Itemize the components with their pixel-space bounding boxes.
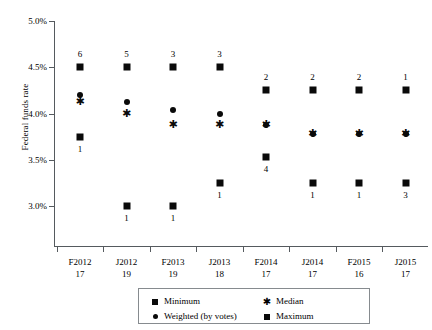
x-category-count: 17 (254, 268, 277, 280)
x-tick-mark (57, 246, 58, 252)
data-marker-circle (217, 111, 223, 117)
y-tick-mark (49, 67, 54, 68)
x-category-count: 19 (116, 268, 138, 280)
data-point-count-label: 2 (264, 73, 269, 82)
y-axis-line (54, 21, 55, 246)
legend-label: Maximum (276, 312, 314, 321)
legend-label: Minimum (164, 297, 200, 306)
data-marker-square (263, 153, 270, 160)
x-axis-line (54, 246, 428, 247)
x-category-name: J2014 (302, 256, 324, 268)
x-category-name: J2015 (395, 256, 417, 268)
x-category-count: 17 (395, 268, 417, 280)
data-point-count-label: 1 (217, 190, 222, 199)
x-category-count: 17 (302, 268, 324, 280)
x-category-label: J201517 (395, 256, 417, 280)
data-point-count-label: 5 (124, 50, 129, 59)
data-marker-square (309, 87, 316, 94)
data-point-count-label: 3 (403, 190, 408, 199)
data-marker-circle (124, 99, 130, 105)
data-marker-square (402, 87, 409, 94)
plot-area: 3.0%3.5%4.0%4.5%5.0% 65332221✱✱✱✱✱✱✱✱111… (54, 18, 428, 246)
x-category-label: F201516 (347, 256, 370, 280)
data-marker-square (170, 64, 177, 71)
x-category-name: J2012 (116, 256, 138, 268)
legend-label: Median (276, 297, 304, 306)
data-point-count-label: 1 (357, 190, 362, 199)
y-tick-mark (49, 160, 54, 161)
data-marker-square (356, 87, 363, 94)
x-category-label: J201417 (302, 256, 324, 280)
chart-figure: Federal funds rate 3.0%3.5%4.0%4.5%5.0% … (0, 0, 432, 330)
x-category-name: F2014 (254, 256, 277, 268)
legend-label: Weighted (by votes) (164, 312, 237, 321)
y-tick-mark (49, 206, 54, 207)
data-marker-square (402, 179, 409, 186)
x-category-label: J201318 (209, 256, 231, 280)
x-category-count: 19 (161, 268, 184, 280)
y-tick-mark (49, 21, 54, 22)
chart-legend: Minimum✱MedianWeighted (by votes)Maximum (138, 288, 370, 324)
y-tick-label: 3.0% (28, 202, 47, 211)
legend-glyph-square (261, 312, 273, 321)
y-tick-label: 5.0% (28, 17, 47, 26)
x-category-label: F201319 (161, 256, 184, 280)
legend-circle-icon (153, 314, 158, 319)
x-category-name: J2013 (209, 256, 231, 268)
data-marker-square (123, 203, 130, 210)
legend-square-icon (264, 314, 270, 320)
data-point-count-label: 1 (310, 190, 315, 199)
legend-glyph-circle (149, 312, 161, 321)
data-point-count-label: 2 (357, 73, 362, 82)
y-tick: 3.5% (54, 160, 55, 161)
legend-glyph-star: ✱ (261, 297, 273, 306)
data-marker-square (77, 64, 84, 71)
y-tick: 4.5% (54, 67, 55, 68)
x-tick-mark (196, 246, 197, 252)
data-point-count-label: 2 (310, 73, 315, 82)
y-tick-label: 3.5% (28, 155, 47, 164)
data-marker-square (309, 179, 316, 186)
data-marker-square (123, 64, 130, 71)
data-marker-circle (170, 107, 176, 113)
x-category-label: J201219 (116, 256, 138, 280)
legend-entry[interactable]: Maximum (261, 312, 314, 321)
data-point-count-label: 6 (78, 50, 83, 59)
legend-glyph-square (149, 297, 161, 306)
x-tick-mark (382, 246, 383, 252)
legend-entry[interactable]: Weighted (by votes) (149, 312, 237, 321)
x-tick-mark (103, 246, 104, 252)
legend-square-icon (152, 299, 158, 305)
x-category-count: 17 (68, 268, 91, 280)
x-category-label: F201417 (254, 256, 277, 280)
x-tick-mark (243, 246, 244, 252)
data-point-count-label: 1 (124, 214, 129, 223)
data-marker-square (216, 64, 223, 71)
x-category-count: 18 (209, 268, 231, 280)
legend-entry[interactable]: Minimum (149, 297, 200, 306)
data-marker-square (170, 203, 177, 210)
x-category-name: F2012 (68, 256, 91, 268)
x-tick-mark (150, 246, 151, 252)
y-tick-label: 4.0% (28, 109, 47, 118)
data-marker-square (356, 179, 363, 186)
data-point-count-label: 3 (171, 50, 176, 59)
x-tick-mark (336, 246, 337, 252)
x-category-label: F201217 (68, 256, 91, 280)
y-tick-mark (49, 114, 54, 115)
data-marker-square (216, 179, 223, 186)
data-point-count-label: 1 (403, 73, 408, 82)
legend-entry[interactable]: ✱Median (261, 297, 304, 306)
data-point-count-label: 1 (78, 144, 83, 153)
x-category-name: F2013 (161, 256, 184, 268)
data-point-count-label: 1 (171, 214, 176, 223)
x-category-count: 16 (347, 268, 370, 280)
x-category-name: F2015 (347, 256, 370, 268)
data-point-count-label: 4 (264, 164, 269, 173)
y-tick: 3.0% (54, 206, 55, 207)
y-tick: 4.0% (54, 114, 55, 115)
data-point-count-label: 3 (217, 50, 222, 59)
y-tick-label: 4.5% (28, 63, 47, 72)
data-marker-square (263, 87, 270, 94)
y-tick: 5.0% (54, 21, 55, 22)
